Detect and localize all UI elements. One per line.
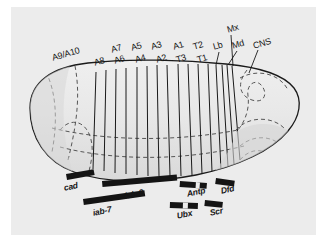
- gene-bar-iab-2: [102, 174, 177, 187]
- gene-bar-cad: [66, 169, 95, 180]
- figure-container: A9/A10 A7 A5 A3 A1 T2 Lb Md Mx CNS A8 A6…: [0, 0, 326, 245]
- gene-expression-bars: [0, 0, 326, 245]
- gene-bar-ubx: [170, 202, 198, 209]
